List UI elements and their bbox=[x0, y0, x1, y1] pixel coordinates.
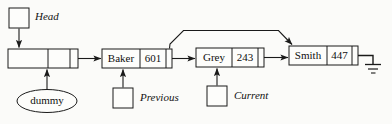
previous-label: Previous bbox=[140, 92, 179, 103]
current-label: Current bbox=[234, 90, 268, 101]
node-grey-name: Grey bbox=[196, 52, 232, 63]
ground-icon bbox=[358, 56, 381, 74]
node-baker-name: Baker bbox=[102, 53, 140, 64]
head-pointer-box bbox=[9, 8, 29, 28]
node-smith-number: 447 bbox=[327, 50, 352, 61]
node-dummy bbox=[8, 49, 78, 68]
previous-pointer-box bbox=[113, 88, 133, 108]
node-smith-name: Smith bbox=[289, 50, 327, 61]
current-pointer-box bbox=[207, 86, 227, 106]
dummy-label: dummy bbox=[27, 95, 67, 106]
node-grey-number: 243 bbox=[232, 52, 258, 63]
linked-list-diagram: Head Previous Current dummy Baker 601 Gr… bbox=[0, 0, 392, 124]
head-label: Head bbox=[35, 11, 59, 22]
link-baker-to-smith-overhead bbox=[170, 31, 293, 49]
node-baker-number: 601 bbox=[140, 53, 166, 64]
